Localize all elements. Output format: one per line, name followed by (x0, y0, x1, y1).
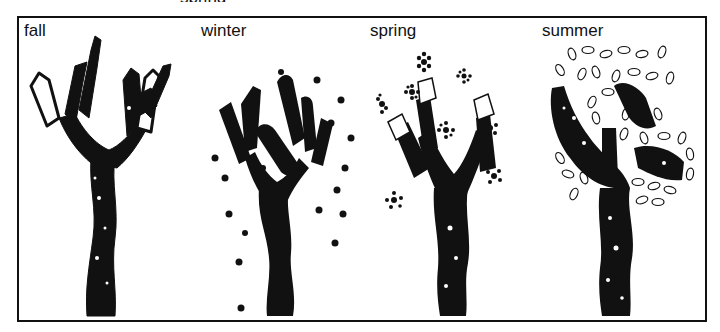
winter-tree-illustration (189, 18, 364, 320)
panel-fall: fall (19, 18, 189, 320)
cropped-caption: spring (180, 0, 380, 2)
panel-spring: spring (364, 18, 534, 320)
fall-tree-illustration (19, 18, 189, 320)
cropped-caption-text: spring (180, 0, 226, 2)
summer-tree-illustration (534, 18, 705, 320)
illustration-frame: fall (17, 16, 707, 322)
spring-tree-illustration (364, 18, 534, 320)
panel-summer: summer (534, 18, 705, 320)
panel-winter: winter (189, 18, 364, 320)
